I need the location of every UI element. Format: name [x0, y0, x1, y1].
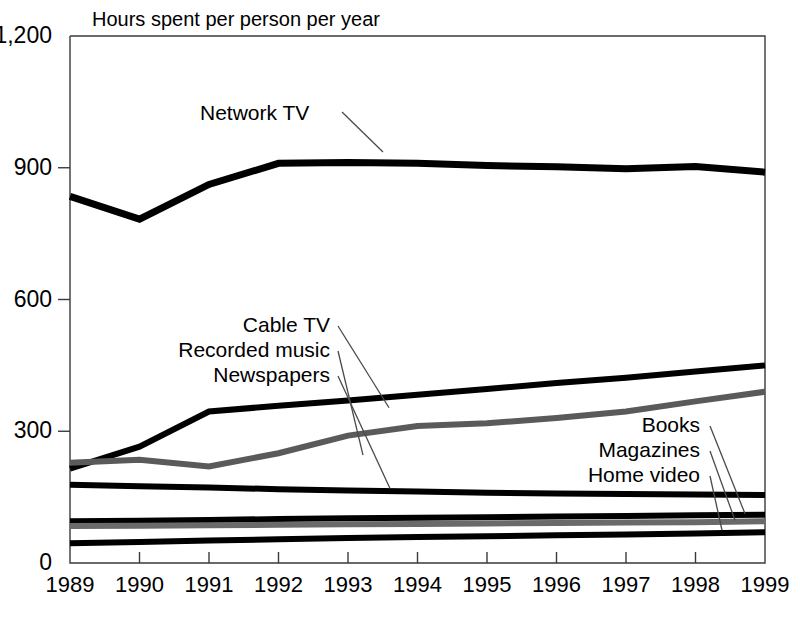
series-label-home-video: Home video	[588, 463, 700, 486]
x-tick-label: 1990	[115, 572, 164, 597]
x-tick-label: 1996	[532, 572, 581, 597]
leader-magazines	[710, 451, 735, 520]
series-line-network-tv	[70, 162, 765, 219]
series-line-home-video	[70, 532, 765, 543]
chart-figure: Hours spent per person per year 03006009…	[0, 0, 800, 617]
y-tick-label: 900	[14, 154, 52, 180]
x-tick-label: 1995	[463, 572, 512, 597]
series-lines	[70, 162, 765, 543]
x-tick-label: 1994	[393, 572, 442, 597]
x-tick-label: 1998	[671, 572, 720, 597]
x-tick-label: 1999	[741, 572, 790, 597]
series-label-books: Books	[642, 413, 700, 436]
x-tick-label: 1993	[324, 572, 373, 597]
series-label-cable-tv: Cable TV	[243, 313, 330, 336]
x-tick-label: 1997	[602, 572, 651, 597]
x-tick-label: 1991	[185, 572, 234, 597]
series-label-recorded-music: Recorded music	[178, 338, 330, 361]
series-annotations: Network TVCable TVRecorded musicNewspape…	[178, 101, 700, 486]
x-tick-label: 1989	[46, 572, 95, 597]
x-axis: 1989199019911992199319941995199619971998…	[46, 552, 790, 597]
chart-title: Hours spent per person per year	[92, 8, 380, 30]
leader-cable-tv	[338, 326, 389, 408]
y-tick-label: 1,200	[0, 22, 52, 48]
x-tick-label: 1992	[254, 572, 303, 597]
series-label-magazines: Magazines	[598, 438, 700, 461]
y-tick-label: 600	[14, 286, 52, 312]
y-tick-label: 300	[14, 417, 52, 443]
y-axis: 03006009001,200	[0, 22, 70, 575]
series-label-newspapers: Newspapers	[213, 363, 330, 386]
leader-network-tv	[342, 112, 383, 152]
series-label-network-tv: Network TV	[200, 101, 309, 124]
line-chart: Hours spent per person per year 03006009…	[0, 0, 800, 617]
series-line-newspapers	[70, 485, 765, 495]
